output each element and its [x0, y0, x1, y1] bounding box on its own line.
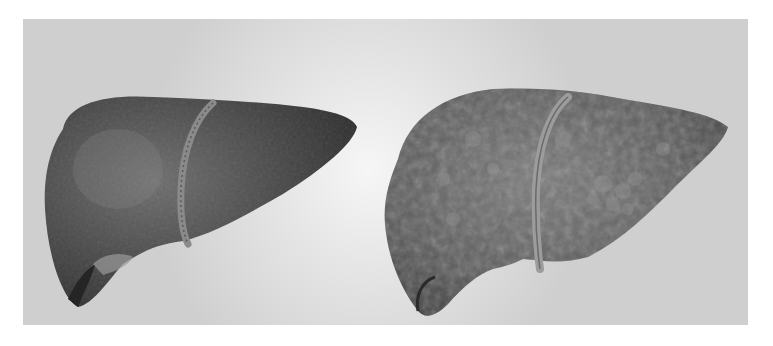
cirrhotic-liver	[385, 88, 728, 315]
liver-comparison-figure	[23, 19, 748, 325]
healthy-liver	[45, 96, 357, 307]
illustration-panel	[23, 19, 748, 325]
